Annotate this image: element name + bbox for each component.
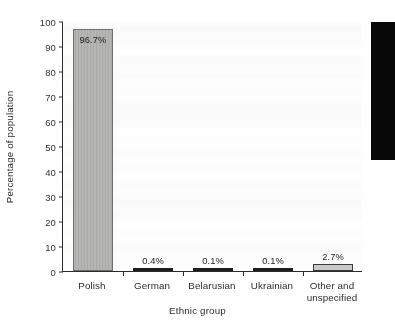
x-axis-tick-mark — [303, 271, 304, 276]
y-axis-tick-label: 80 — [45, 67, 59, 78]
y-axis-tick-label: 100 — [40, 17, 59, 28]
y-axis-tick-mark — [59, 272, 63, 273]
y-axis-tick: 40 — [45, 167, 63, 178]
y-axis-tick-mark — [59, 172, 63, 173]
y-axis-tick: 60 — [45, 117, 63, 128]
x-axis-title: Ethnic group — [0, 305, 395, 316]
y-axis-tick: 50 — [45, 142, 63, 153]
bar — [73, 29, 113, 271]
y-axis-tick: 10 — [45, 242, 63, 253]
y-axis-tick-label: 10 — [45, 242, 59, 253]
bar-value-label: 96.7% — [63, 35, 123, 45]
bar — [133, 268, 173, 272]
y-axis-tick-mark — [59, 22, 63, 23]
x-axis-category-label-line: Other and — [292, 280, 372, 292]
y-axis-tick-mark — [59, 72, 63, 73]
y-axis-tick: 100 — [40, 17, 63, 28]
x-axis-tick-mark — [183, 271, 184, 276]
y-axis-tick: 70 — [45, 92, 63, 103]
y-axis-tick: 20 — [45, 217, 63, 228]
chart-screenshot: Percentage of population 010203040506070… — [0, 0, 395, 333]
y-axis-tick-label: 20 — [45, 217, 59, 228]
y-axis-tick: 30 — [45, 192, 63, 203]
bar-value-label: 0.1% — [243, 256, 303, 266]
x-axis-tick-mark — [243, 271, 244, 276]
y-axis-tick: 0 — [51, 267, 63, 278]
y-axis-tick-mark — [59, 122, 63, 123]
y-axis-tick-mark — [59, 222, 63, 223]
bar — [193, 268, 233, 272]
y-axis-tick-mark — [59, 247, 63, 248]
x-axis-tick-mark — [123, 271, 124, 276]
x-axis-category-label-line: unspecified — [292, 292, 372, 304]
bar — [313, 264, 353, 271]
bar-value-label: 0.4% — [123, 256, 183, 266]
y-axis-tick-mark — [59, 147, 63, 148]
y-axis-tick-mark — [59, 47, 63, 48]
x-axis-category-label: Other andunspecified — [292, 280, 372, 304]
bar — [253, 268, 293, 272]
y-axis-tick: 90 — [45, 42, 63, 53]
y-axis-tick-mark — [59, 97, 63, 98]
bar-value-label: 0.1% — [183, 256, 243, 266]
y-axis-tick-label: 50 — [45, 142, 59, 153]
y-axis-title: Percentage of population — [4, 91, 15, 204]
y-axis-tick-label: 70 — [45, 92, 59, 103]
plot-area: 0102030405060708090100 96.7%0.4%0.1%0.1%… — [62, 22, 362, 272]
y-axis-tick-label: 30 — [45, 192, 59, 203]
y-axis-tick-label: 90 — [45, 42, 59, 53]
y-axis-tick-label: 40 — [45, 167, 59, 178]
bar-value-label: 2.7% — [303, 252, 363, 262]
y-axis-tick-mark — [59, 197, 63, 198]
y-axis-tick-label: 60 — [45, 117, 59, 128]
y-axis-tick: 80 — [45, 67, 63, 78]
scan-artifact-block — [371, 22, 395, 160]
y-axis-tick-label: 0 — [51, 267, 59, 278]
